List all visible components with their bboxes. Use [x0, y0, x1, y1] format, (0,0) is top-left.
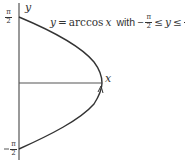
tick-label-top: π 2 — [5, 9, 12, 25]
graph-title: y = arccos x with − π 2 ≤ y ≤ π 2 — [50, 14, 185, 30]
x-axis-label: x — [105, 73, 111, 84]
title-eq: = — [58, 16, 67, 28]
tick-top-num: π — [6, 9, 11, 16]
title-frac-2: π 2 — [184, 14, 185, 30]
title-frac-1: π 2 — [145, 14, 152, 30]
title-var: y — [165, 16, 171, 28]
title-le-1: ≤ — [154, 16, 163, 28]
title-frac-den: 2 — [147, 23, 151, 30]
title-frac-num: π — [146, 14, 151, 21]
title-arg: x — [106, 16, 112, 28]
tick-bottom-num: π — [11, 141, 16, 148]
tick-label-bottom: π 2 — [10, 141, 17, 157]
title-with: with — [116, 16, 135, 28]
title-minus: − — [137, 16, 143, 28]
title-func: arccos — [69, 16, 104, 28]
title-lhs: y — [50, 16, 56, 28]
tick-top-den: 2 — [6, 18, 10, 25]
title-le-2: ≤ — [173, 16, 182, 28]
tick-bottom-den: 2 — [11, 150, 15, 157]
y-axis-label: y — [25, 2, 31, 13]
